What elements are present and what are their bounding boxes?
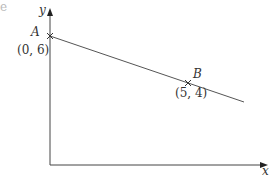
- y-axis-label: y: [39, 3, 46, 17]
- point-b-coords: (5, 4): [175, 86, 207, 100]
- point-a-label: A: [31, 25, 40, 39]
- point-a-coords: (0, 6): [17, 43, 49, 57]
- edge-fragment: e: [0, 0, 7, 14]
- line-ab: [50, 36, 244, 102]
- point-b-label: B: [193, 67, 202, 81]
- y-axis-arrow: [47, 8, 53, 16]
- x-axis-label: x: [262, 164, 269, 178]
- diagram-canvas: [0, 0, 274, 178]
